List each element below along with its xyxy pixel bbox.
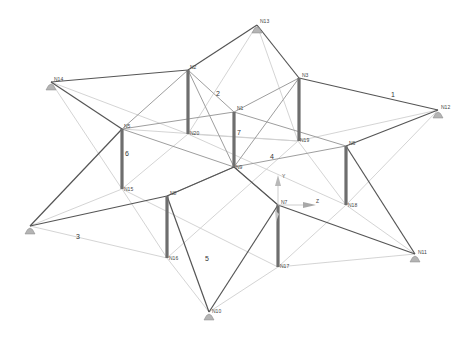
- node-labels: N1 N2 N3 N5 N6 N7 N8 N9 N10 N11 N12 N13 …: [54, 18, 450, 314]
- support-icon-n10: [204, 314, 214, 320]
- axis-z-arrow-icon: [303, 202, 316, 208]
- supports: [25, 27, 443, 320]
- node-label: N15: [124, 186, 133, 192]
- member-label: 3: [76, 233, 80, 240]
- node-label: N12: [441, 104, 450, 110]
- node-label: N8: [170, 190, 177, 196]
- member-label: 1: [391, 91, 395, 98]
- node-label: N1: [237, 105, 244, 111]
- node-label: N7: [281, 199, 288, 205]
- node-label: N6: [349, 140, 356, 146]
- member-label: 4: [270, 153, 274, 160]
- node-label: N20: [190, 130, 199, 136]
- node-label: N17: [280, 263, 289, 269]
- node-label: N2: [190, 64, 197, 70]
- node-label: N13: [260, 18, 269, 24]
- node-label: N16: [169, 255, 178, 261]
- member-label: 6: [125, 150, 129, 157]
- axis-z-label: Z: [316, 198, 319, 204]
- node-label: N9: [236, 164, 243, 170]
- node-label: N11: [418, 249, 427, 255]
- node-label: N5: [124, 123, 131, 129]
- structural-model-canvas[interactable]: Y Z N1 N2 N3 N5 N6 N7 N8 N9 N10 N11 N12 …: [0, 0, 467, 343]
- node-label: N18: [348, 202, 357, 208]
- support-icon-n12: [433, 112, 443, 118]
- member-label: 7: [237, 129, 241, 136]
- support-icon-n11: [410, 256, 420, 262]
- node-label: N19: [300, 137, 309, 143]
- member-label: 5: [205, 255, 209, 262]
- outer-beams: [30, 25, 438, 312]
- node-label: N3: [302, 72, 309, 78]
- member-label: 2: [216, 90, 220, 97]
- support-icon-n21: [25, 228, 35, 234]
- light-bracing: [30, 25, 438, 312]
- axis-triad: Y Z: [275, 173, 319, 222]
- node-label: N14: [54, 76, 63, 82]
- axis-y-arrow-icon: [275, 175, 281, 186]
- node-label: N10: [212, 308, 221, 314]
